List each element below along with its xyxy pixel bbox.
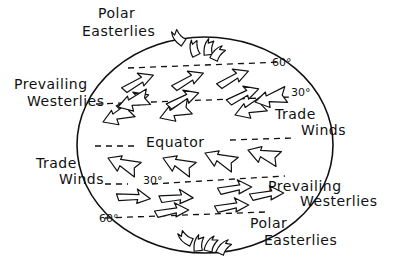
label-polar-easterlies-south-2: Easterlies (264, 232, 337, 248)
label-trade-winds-south-1: Trade (35, 155, 77, 171)
westerlies-south-arrows (115, 178, 284, 220)
label-westerlies-north-2: Westerlies (27, 93, 104, 109)
wind-belts-diagram: Polar Easterlies Prevailing Westerlies T… (0, 0, 416, 260)
label-trade-winds-north-2: Winds (301, 122, 346, 138)
label-trade-winds-north-1: Trade (274, 106, 316, 122)
label-polar-easterlies-south-1: Polar (250, 215, 287, 231)
latitude-line-north-60 (128, 62, 282, 68)
label-equator: Equator (146, 134, 205, 150)
latitude-label-north-60: 60° (272, 56, 292, 69)
label-trade-winds-south-2: Winds (59, 171, 104, 187)
label-polar-easterlies-north-1: Polar (98, 5, 135, 21)
label-westerlies-south-2: Westerlies (300, 193, 377, 209)
label-polar-easterlies-north-2: Easterlies (82, 23, 155, 39)
label-westerlies-north-1: Prevailing (14, 76, 88, 92)
label-westerlies-south-1: Prevailing (268, 178, 342, 194)
equator-line-right (230, 138, 292, 140)
polar-easterlies-north-arrows (168, 28, 226, 62)
latitude-label-south-60: 60° (99, 212, 119, 225)
latitude-label-south-30: 30° (143, 174, 163, 187)
latitude-label-north-30: 30° (291, 86, 311, 99)
latitude-line-south-30 (105, 176, 285, 184)
latitude-line-south-60 (105, 212, 265, 218)
